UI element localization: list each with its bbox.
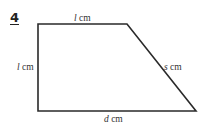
- top-side-label: l cm: [74, 13, 91, 23]
- left-side-label: l cm: [17, 62, 34, 72]
- trapezium-diagram: l cm l cm s cm d cm: [0, 0, 205, 130]
- slant-side-label: s cm: [164, 62, 182, 72]
- bottom-side-label: d cm: [104, 114, 123, 124]
